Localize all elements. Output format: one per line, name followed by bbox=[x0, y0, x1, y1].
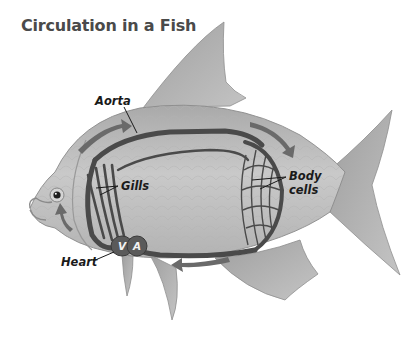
aorta-label: Aorta bbox=[94, 94, 131, 108]
gills-label: Gills bbox=[121, 179, 149, 193]
body-cells-label-line2: cells bbox=[289, 183, 319, 197]
body-cells-label-line1: Body bbox=[289, 169, 322, 183]
heart-label: Heart bbox=[61, 255, 98, 269]
dorsal-fin bbox=[140, 22, 246, 112]
heart: V A bbox=[111, 236, 147, 256]
tail-fin bbox=[330, 110, 400, 275]
fish-diagram: V A Aorta Gills Body cells Heart bbox=[0, 0, 414, 342]
ventricle-label: V bbox=[118, 240, 127, 252]
atrium-label: A bbox=[132, 240, 141, 252]
pelvic-fin-2 bbox=[122, 255, 133, 296]
